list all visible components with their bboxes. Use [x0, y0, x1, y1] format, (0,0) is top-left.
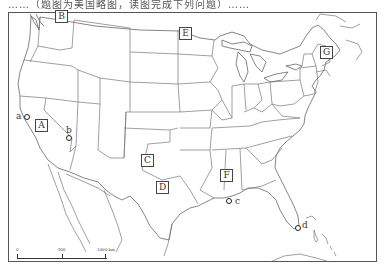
point-label-b: b: [66, 126, 72, 135]
region-label-e: E: [179, 27, 192, 40]
point-label-a: a: [16, 112, 21, 121]
scale-bar: 0 500 1000 km: [17, 251, 107, 259]
region-label-a: A: [35, 119, 48, 132]
point-marker-d: [295, 225, 301, 231]
great-lakes: [222, 40, 302, 82]
scale-tick-0: [17, 254, 18, 259]
scale-label-0: 0: [16, 247, 19, 252]
scale-label-1000: 1000 km: [97, 247, 115, 252]
scale-tick-1000: [105, 254, 106, 259]
point-marker-c: [226, 198, 232, 204]
region-label-g: G: [320, 46, 333, 59]
scale-tick-500: [62, 254, 63, 259]
us-outline-map: [0, 0, 386, 270]
region-label-c: C: [141, 154, 154, 167]
state-borders: [20, 17, 330, 204]
region-label-b: B: [55, 10, 68, 23]
point-marker-b: [66, 135, 72, 141]
point-label-d: d: [302, 221, 308, 230]
scale-label-500: 500: [58, 247, 66, 252]
point-label-c: c: [235, 197, 240, 206]
region-label-d: D: [156, 181, 169, 194]
point-marker-a: [24, 114, 30, 120]
region-label-f: F: [220, 169, 233, 182]
mexico-coast: [48, 164, 172, 256]
